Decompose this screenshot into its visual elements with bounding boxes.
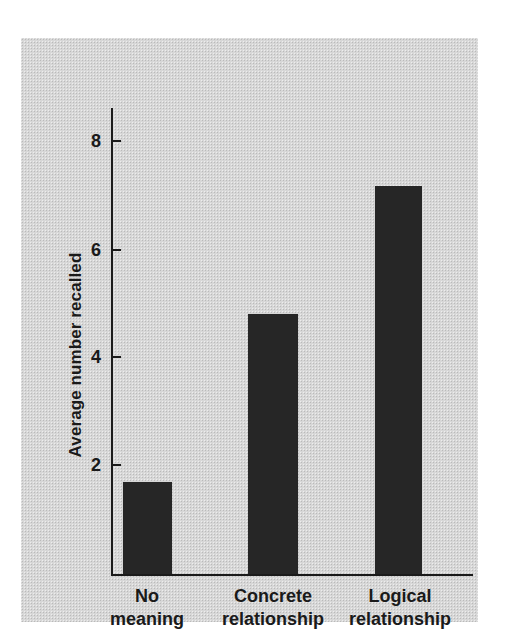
y-tick-mark-8	[113, 140, 121, 142]
x-axis-line	[111, 574, 473, 576]
y-tick-label-2: 2	[75, 456, 101, 474]
y-tick-mark-6	[113, 249, 121, 251]
x-category-label-line1: Logical	[290, 585, 505, 608]
y-axis-line	[111, 108, 113, 576]
bar-logical-relationship	[375, 186, 422, 574]
y-tick-mark-2	[113, 464, 121, 466]
y-tick-mark-4	[113, 356, 121, 358]
y-tick-label-4: 4	[75, 348, 101, 366]
bar-concrete-relationship	[248, 314, 298, 574]
x-category-label-line2: relationship	[290, 608, 505, 631]
y-tick-label-6: 6	[75, 241, 101, 259]
chart-panel: Average number recalled 8 6 4 2 No meani…	[21, 38, 478, 622]
bar-no-meaning	[123, 482, 172, 574]
x-category-label-logical-relationship: Logical relationship	[290, 585, 505, 631]
bar-chart-figure: Average number recalled 8 6 4 2 No meani…	[0, 0, 505, 641]
y-tick-label-8: 8	[75, 132, 101, 150]
